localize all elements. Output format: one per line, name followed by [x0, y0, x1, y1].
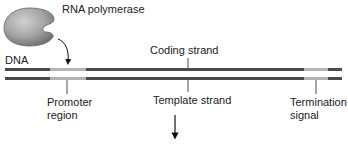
transcription-diagram: RNA polymerase DNA Coding strand Templat…: [0, 0, 348, 147]
template-strand-label: Template strand: [153, 94, 231, 107]
coding-strand: [5, 68, 342, 71]
promoter-label-line1: Promoter: [47, 96, 92, 109]
dna-label: DNA: [5, 54, 28, 67]
rna-polymerase-label: RNA polymerase: [62, 3, 145, 16]
promoter-label-line2: region: [47, 109, 78, 122]
coding-strand-label: Coding strand: [150, 44, 219, 57]
diagram-graphics: [0, 0, 348, 147]
termination-label-line2: signal: [290, 109, 319, 122]
termination-label-line1: Termination: [290, 96, 347, 109]
template-strand: [5, 77, 342, 80]
binding-arrow-icon: [58, 39, 68, 62]
rna-polymerase-icon: [4, 8, 54, 46]
